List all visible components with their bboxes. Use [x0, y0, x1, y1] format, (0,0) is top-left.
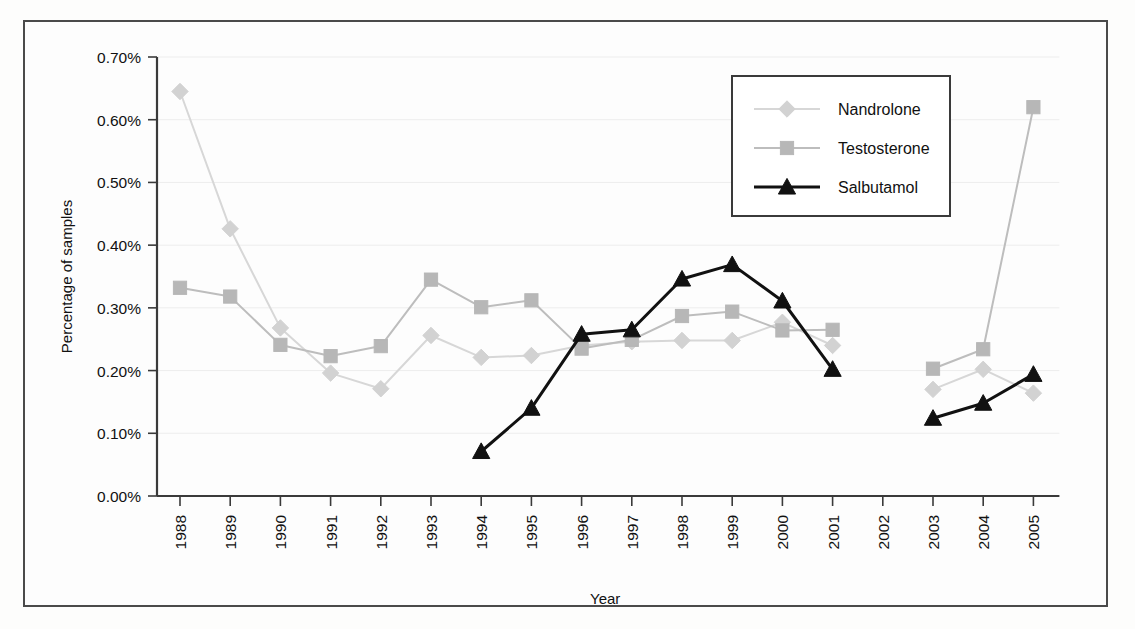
line-chart: 0.00%0.10%0.20%0.30%0.40%0.50%0.60%0.70%…	[25, 22, 1110, 609]
data-point	[172, 83, 188, 99]
data-point	[726, 305, 739, 318]
y-tick-label: 0.60%	[97, 112, 141, 129]
x-tick-label: 2001	[825, 515, 842, 549]
x-tick-label: 1998	[674, 515, 691, 549]
data-point	[975, 361, 991, 377]
x-tick-label: 1988	[172, 515, 189, 549]
data-point	[222, 221, 238, 237]
data-point	[475, 301, 488, 314]
data-point	[776, 324, 789, 337]
y-tick-label: 0.00%	[97, 488, 141, 505]
data-point	[724, 332, 740, 348]
x-tick-label: 1996	[574, 515, 591, 549]
data-point	[274, 338, 287, 351]
data-point	[824, 337, 840, 353]
y-tick-label: 0.70%	[97, 49, 141, 66]
data-point	[724, 256, 741, 272]
y-axis-ticks: 0.00%0.10%0.20%0.30%0.40%0.50%0.60%0.70%	[97, 49, 157, 505]
chart-plot-area: 0.00%0.10%0.20%0.30%0.40%0.50%0.60%0.70%…	[25, 22, 1110, 609]
y-tick-label: 0.10%	[97, 425, 141, 442]
x-axis-ticks: 1988198919901991199219931994199519961997…	[172, 496, 1042, 549]
x-tick-label: 1997	[624, 515, 641, 549]
data-point	[525, 294, 538, 307]
legend-label: Testosterone	[838, 140, 930, 157]
x-tick-label: 1993	[423, 515, 440, 549]
data-point	[1027, 101, 1040, 114]
data-point	[1025, 366, 1042, 382]
data-point	[925, 381, 941, 397]
data-point	[826, 323, 839, 336]
data-point	[977, 343, 990, 356]
data-point	[1025, 385, 1041, 401]
data-point	[674, 332, 690, 348]
chart-figure-frame: 0.00%0.10%0.20%0.30%0.40%0.50%0.60%0.70%…	[23, 20, 1108, 607]
x-tick-label: 1989	[222, 515, 239, 549]
y-axis-title: Percentage of samples	[58, 200, 75, 353]
x-tick-label: 2000	[774, 515, 791, 550]
y-tick-label: 0.30%	[97, 300, 141, 317]
y-tick-label: 0.40%	[97, 237, 141, 254]
x-tick-label: 1990	[272, 515, 289, 550]
y-tick-label: 0.20%	[97, 363, 141, 380]
data-point	[473, 349, 489, 365]
data-point	[324, 350, 337, 363]
legend-label: Salbutamol	[838, 179, 918, 196]
x-tick-label: 1994	[473, 515, 490, 550]
x-axis-title: Year	[590, 590, 620, 607]
x-tick-label: 2004	[975, 515, 992, 550]
x-tick-label: 1992	[373, 515, 390, 549]
x-tick-label: 2003	[925, 515, 942, 549]
legend-label: Nandrolone	[838, 101, 921, 118]
data-point	[975, 395, 992, 411]
data-point	[374, 340, 387, 353]
x-tick-label: 1991	[323, 515, 340, 549]
legend-item-testosterone[interactable]: Testosterone	[754, 140, 930, 157]
series-salbutamol	[473, 256, 1042, 459]
x-tick-label: 2002	[875, 515, 892, 549]
x-tick-label: 1999	[724, 515, 741, 549]
data-point	[926, 362, 939, 375]
data-point	[424, 273, 437, 286]
x-tick-label: 2005	[1025, 515, 1042, 549]
data-point	[675, 309, 688, 322]
chart-legend: NandroloneTestosteroneSalbutamol	[732, 76, 950, 216]
data-point	[523, 347, 539, 363]
data-point	[575, 342, 588, 355]
data-point	[173, 281, 186, 294]
legend-marker-swatch	[780, 141, 793, 154]
data-point	[774, 292, 791, 308]
x-tick-label: 1995	[523, 515, 540, 549]
y-tick-label: 0.50%	[97, 174, 141, 191]
data-point	[224, 290, 237, 303]
